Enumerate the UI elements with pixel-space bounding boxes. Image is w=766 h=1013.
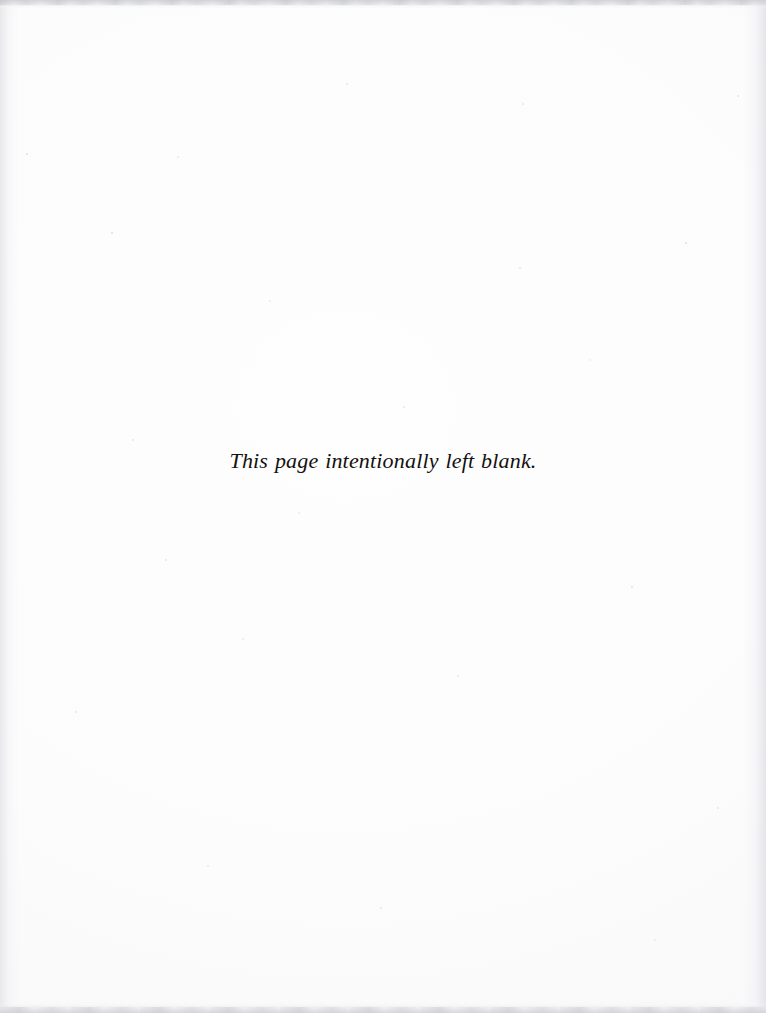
right-edge-shading <box>736 0 766 1013</box>
blank-page-notice: This page intentionally left blank. <box>0 446 766 476</box>
left-edge-shading <box>0 0 26 1013</box>
bottom-edge-scan-band <box>0 1001 766 1013</box>
top-edge-scan-band <box>0 0 766 9</box>
scanned-page: This page intentionally left blank. <box>0 0 766 1013</box>
scan-speckle-texture <box>0 0 766 1013</box>
blank-page-notice-text: This page intentionally left blank. <box>229 446 536 476</box>
paper-tone-overlay <box>0 0 766 1013</box>
